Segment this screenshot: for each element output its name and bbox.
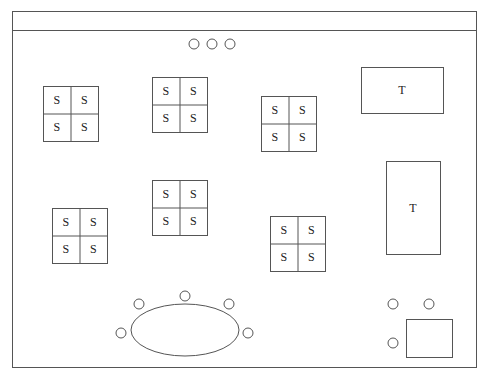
- seat-label: S: [90, 215, 97, 229]
- seat-label: S: [190, 214, 197, 228]
- chair-icon: [243, 328, 253, 338]
- seat-label: S: [271, 130, 278, 144]
- chair-icon: [388, 338, 398, 348]
- seat-label: S: [308, 223, 315, 237]
- seat-label: S: [280, 223, 287, 237]
- seat-label: S: [81, 120, 88, 134]
- room-outline: [13, 12, 477, 368]
- seat-label: S: [271, 103, 278, 117]
- floor-plan: SSSSSSSSSSSSSSSSSSSSSSSSTT: [0, 0, 485, 377]
- seat-label: S: [90, 242, 97, 256]
- chair-icon: [189, 39, 199, 49]
- chair-icon: [207, 39, 217, 49]
- seat-label: S: [53, 93, 60, 107]
- chair-icon: [134, 299, 144, 309]
- chair-icon: [116, 328, 126, 338]
- desk: [407, 320, 453, 358]
- seat-label: S: [190, 84, 197, 98]
- seat-label: S: [299, 130, 306, 144]
- chair-icon: [225, 39, 235, 49]
- seat-label: S: [190, 187, 197, 201]
- seat-label: S: [81, 93, 88, 107]
- seat-label: S: [299, 103, 306, 117]
- seat-label: S: [162, 187, 169, 201]
- table-label: T: [398, 83, 406, 97]
- seat-label: S: [53, 120, 60, 134]
- seat-label: S: [62, 242, 69, 256]
- chair-icon: [388, 299, 398, 309]
- chair-icon: [424, 299, 434, 309]
- seat-label: S: [162, 214, 169, 228]
- oval-table: [131, 304, 239, 356]
- table-label: T: [409, 201, 417, 215]
- chair-icon: [224, 299, 234, 309]
- seat-label: S: [162, 84, 169, 98]
- seat-label: S: [308, 250, 315, 264]
- chair-icon: [180, 291, 190, 301]
- seat-label: S: [280, 250, 287, 264]
- seat-label: S: [62, 215, 69, 229]
- seat-label: S: [162, 111, 169, 125]
- seat-label: S: [190, 111, 197, 125]
